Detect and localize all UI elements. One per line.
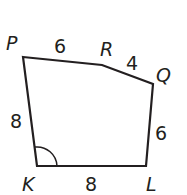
side-length-kl: 8 [85,173,97,195]
diagram-canvas: P R Q K L 6 4 6 8 8 [0,0,187,195]
angle-arc-k [35,147,57,166]
side-length-ql: 6 [155,122,167,144]
vertex-label-r: R [100,38,113,60]
side-length-pr: 6 [54,35,66,57]
side-length-pk: 8 [10,110,22,132]
vertex-label-p: P [6,32,18,54]
pentagon-diagram: P R Q K L 6 4 6 8 8 [0,0,187,195]
vertex-label-q: Q [156,64,171,86]
side-length-rq: 4 [126,52,138,74]
vertex-label-k: K [22,173,36,195]
vertex-label-l: L [146,173,157,195]
